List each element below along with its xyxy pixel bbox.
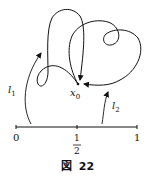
- base-point-x0: [77, 83, 80, 86]
- tick-label-half-numerator: 1: [74, 134, 80, 143]
- label-x0: x0: [70, 88, 80, 101]
- label-l1-sub: 1: [11, 90, 15, 98]
- tick-label-0: 0: [13, 133, 19, 143]
- loop-curve-2: [69, 21, 141, 85]
- path-l1-curve: [25, 53, 41, 124]
- label-x0-sub: 0: [76, 93, 80, 101]
- figure-caption: 図 22: [61, 161, 94, 172]
- caption-number: 22: [79, 160, 94, 173]
- label-l2: l2: [112, 101, 120, 114]
- loop-curve-1: [37, 9, 84, 86]
- caption-prefix: 図: [61, 160, 72, 173]
- tick-label-half-denominator: 2: [74, 147, 80, 156]
- label-l2-sub: 2: [115, 106, 119, 114]
- path-l2-curve: [102, 92, 108, 124]
- tick-label-1: 1: [134, 133, 140, 143]
- label-l1: l1: [8, 85, 16, 98]
